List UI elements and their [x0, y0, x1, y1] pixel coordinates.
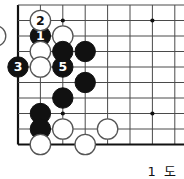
stone-black[interactable] [75, 72, 95, 92]
stone-black[interactable] [75, 41, 95, 61]
stone-disc [97, 119, 117, 139]
stone-black-3[interactable]: 3 [8, 57, 28, 77]
stone-disc [53, 88, 73, 108]
star-point [61, 111, 65, 115]
stone-white-4[interactable]: 4 [0, 26, 6, 46]
move-number-label: 3 [14, 59, 23, 74]
stone-disc [30, 134, 50, 154]
stone-disc [75, 72, 95, 92]
go-diagram-figure: 12345 1 도 [0, 0, 184, 179]
stone-white[interactable] [75, 134, 95, 154]
stone-white-2[interactable]: 2 [30, 10, 50, 30]
stone-white[interactable] [30, 57, 50, 77]
stone-white[interactable] [30, 134, 50, 154]
stone-disc [53, 41, 73, 61]
stone-white[interactable] [53, 119, 73, 139]
stone-disc [30, 57, 50, 77]
star-point [150, 111, 154, 115]
stone-black[interactable] [53, 41, 73, 61]
stone-disc [53, 119, 73, 139]
star-point [61, 18, 65, 22]
stone-disc [75, 134, 95, 154]
go-board[interactable]: 12345 [0, 0, 184, 179]
figure-caption: 1 도 [148, 165, 178, 178]
stone-white[interactable] [97, 119, 117, 139]
star-point [150, 18, 154, 22]
stone-black[interactable] [53, 88, 73, 108]
stone-disc [0, 26, 6, 46]
stone-disc [75, 41, 95, 61]
move-number-label: 2 [36, 13, 45, 28]
